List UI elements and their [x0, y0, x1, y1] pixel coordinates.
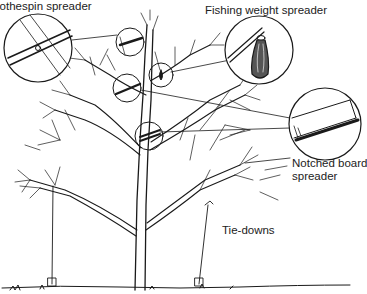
scaffold-branches — [30, 45, 245, 236]
tie-downs — [48, 186, 213, 286]
notched-board-detail-callout — [289, 88, 361, 160]
tie-downs-label: Tie-downs — [222, 224, 275, 237]
fishing-weight-spreader-label: Fishing weight spreader — [205, 4, 327, 17]
notched-board-spreader-label: Notched board spreader — [292, 157, 367, 183]
fishing-weight-detail-callout — [225, 16, 293, 84]
clothespin-detail-callout — [4, 14, 72, 82]
notched-board-label-line1: Notched board — [292, 157, 367, 170]
trunk — [135, 25, 153, 290]
notched-board-label-line2: spreader — [292, 170, 367, 183]
clothespin-spreader-label: lothespin spreader — [0, 0, 92, 13]
ground — [2, 284, 350, 290]
